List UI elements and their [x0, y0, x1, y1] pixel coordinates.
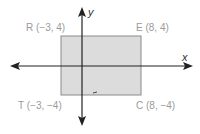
point-label-C: C (8, −4)	[136, 101, 175, 111]
coordinate-plane	[0, 0, 200, 134]
point-label-T: T (−3, −4)	[18, 101, 62, 111]
point-label-E: E (8, 4)	[136, 23, 169, 33]
x-axis-label: x	[182, 52, 188, 63]
y-axis-label: y	[88, 7, 94, 18]
point-label-R: R (−3, 4)	[26, 23, 65, 33]
